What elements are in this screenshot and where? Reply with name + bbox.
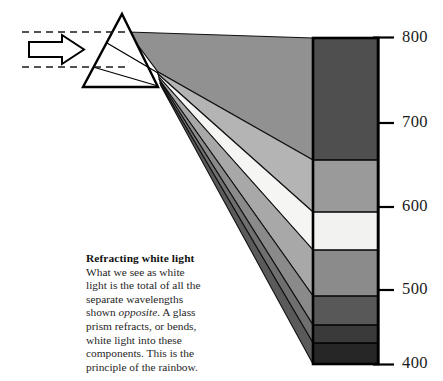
caption-block: Refracting white light What we see as wh… [86,252,218,374]
caption-line-2: light is the total of all the [86,279,201,291]
spectrum-band-indigo [313,325,378,343]
scale-label-700: 700 [402,112,428,132]
caption-line-4-pre: shown [86,306,119,318]
caption-line-8: principle of the rainbow. [86,361,198,373]
spectrum-band-yellow [313,212,378,250]
spectrum-band-green [313,250,378,296]
caption-body: What we see as white light is the total … [86,266,218,375]
scale-label-800: 800 [402,27,428,47]
spectrum-bar [313,38,378,364]
scale-label-600: 600 [402,196,428,216]
caption-line-4-post: . A glass [157,306,195,318]
caption-line-1: What we see as white [86,266,185,278]
caption-heading: Refracting white light [86,252,218,266]
scale-label-400: 400 [402,353,428,373]
caption-line-5: prism refracts, or bends, [86,320,196,332]
spectrum-band-blue [313,296,378,325]
caption-line-4-emphasis: opposite [119,306,158,318]
spectrum-band-violet [313,343,378,364]
caption-line-6: white light into these [86,334,182,346]
spectrum-band-red [313,38,378,160]
scale-label-500: 500 [402,279,428,299]
spectrum-band-orange [313,160,378,212]
caption-line-3: separate wavelengths [86,293,183,305]
caption-line-7: components. This is the [86,347,194,359]
refraction-diagram [0,0,443,381]
